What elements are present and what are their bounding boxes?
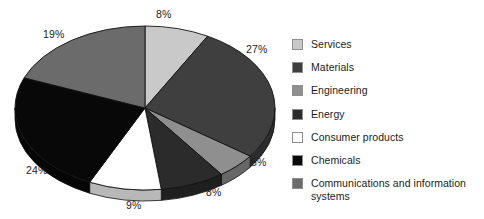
legend-swatch-consumer-products-icon <box>292 132 303 143</box>
legend-item-chemicals[interactable]: Chemicals <box>292 154 484 168</box>
legend-label-chemicals: Chemicals <box>311 154 360 166</box>
pie-label-chemicals: 24% <box>26 164 47 176</box>
pie-chart-figure: 8% 27% 5% 8% 9% 24% 19% Services Materia… <box>0 0 484 219</box>
legend-swatch-chemicals-icon <box>292 155 303 166</box>
pie-label-communications: 19% <box>43 28 64 40</box>
legend-item-services[interactable]: Services <box>292 38 484 52</box>
legend-label-materials: Materials <box>311 61 354 73</box>
pie-label-engineering: 5% <box>251 156 266 168</box>
legend-swatch-energy-icon <box>292 109 303 120</box>
legend-label-consumer-products: Consumer products <box>311 131 403 143</box>
legend-item-materials[interactable]: Materials <box>292 61 484 75</box>
legend-swatch-communications-icon <box>292 178 303 189</box>
pie-label-consumer-products: 9% <box>126 199 141 211</box>
legend-label-services: Services <box>311 38 352 50</box>
pie-label-energy: 8% <box>206 186 221 198</box>
legend-label-energy: Energy <box>311 108 345 120</box>
legend-swatch-engineering-icon <box>292 85 303 96</box>
legend-label-engineering: Engineering <box>311 84 368 96</box>
legend-swatch-services-icon <box>292 39 303 50</box>
legend-label-communications: Communications and information systems <box>311 177 466 202</box>
legend-item-energy[interactable]: Energy <box>292 108 484 122</box>
legend-item-communications[interactable]: Communications and information systems <box>292 177 484 203</box>
legend-item-engineering[interactable]: Engineering <box>292 84 484 98</box>
pie-label-materials: 27% <box>246 43 267 55</box>
pie-chart-plot-area: 8% 27% 5% 8% 9% 24% 19% <box>0 0 290 219</box>
legend-swatch-materials-icon <box>292 62 303 73</box>
pie-label-services: 8% <box>156 8 171 20</box>
legend-item-consumer-products[interactable]: Consumer products <box>292 131 484 145</box>
chart-legend: Services Materials Engineering Energy Co… <box>292 38 484 203</box>
